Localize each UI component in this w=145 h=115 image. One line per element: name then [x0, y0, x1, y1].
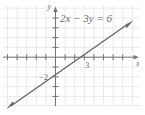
- coordinate-plane-svg: 2x − 3y = 6 y x 3 −2: [0, 0, 145, 115]
- x-axis: [3, 54, 139, 60]
- y-axis: [53, 7, 59, 107]
- y-intercept-label: −2: [39, 72, 48, 82]
- graph-figure: 2x − 3y = 6 y x 3 −2: [0, 0, 145, 115]
- y-axis-label: y: [47, 2, 52, 11]
- x-axis-label: x: [135, 59, 140, 68]
- equation-label: 2x − 3y = 6: [60, 12, 113, 24]
- x-intercept-label: 3: [85, 60, 89, 70]
